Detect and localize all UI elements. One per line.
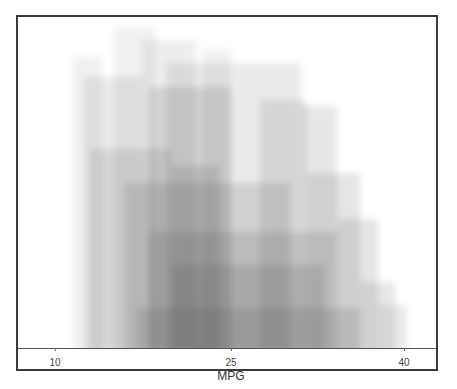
x-tick-40 [404,348,405,351]
plot-area [18,17,436,348]
x-tick-label-40: 40 [398,357,409,368]
x-axis-line [18,348,436,349]
x-tick-10 [55,348,56,351]
x-tick-label-25: 25 [225,357,236,368]
density-band [378,305,407,348]
x-axis-label: MPG [217,369,244,383]
density-band [137,308,360,348]
chart-frame: 10 25 40 MPG [16,15,438,371]
x-tick-25 [231,348,232,351]
x-tick-label-10: 10 [49,357,60,368]
